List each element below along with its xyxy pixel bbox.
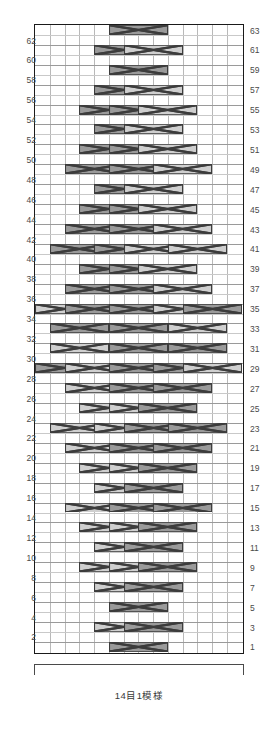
- bracket-bar: [34, 664, 244, 665]
- cable-symbol-dark: [153, 383, 212, 393]
- cable-symbol-dark: [109, 25, 168, 35]
- row-label-53: 53: [250, 125, 259, 135]
- grid-hline: [35, 453, 243, 454]
- row-label-8: 8: [31, 573, 36, 583]
- cable-symbol-dark: [138, 403, 197, 413]
- row-label-26: 26: [27, 394, 36, 404]
- pattern-repeat-bracket: [34, 664, 244, 676]
- cable-symbol-light: [183, 363, 242, 373]
- cable-symbol-dark: [138, 562, 197, 572]
- grid-vline: [212, 25, 213, 653]
- grid-hline: [35, 612, 243, 613]
- row-label-3: 3: [250, 623, 255, 633]
- cable-symbol-dark: [183, 304, 242, 314]
- grid-hline: [35, 75, 243, 76]
- row-label-30: 30: [27, 354, 36, 364]
- cable-symbol-light: [50, 343, 109, 353]
- row-label-18: 18: [27, 473, 36, 483]
- cable-symbol-light: [138, 105, 197, 115]
- grid-vline: [183, 25, 184, 653]
- row-label-21: 21: [250, 443, 259, 453]
- row-label-36: 36: [27, 294, 36, 304]
- row-label-43: 43: [250, 225, 259, 235]
- row-label-29: 29: [250, 364, 259, 374]
- row-label-1: 1: [250, 642, 255, 652]
- grid-hline: [35, 194, 243, 195]
- row-label-37: 37: [250, 284, 259, 294]
- cable-symbol-dark: [153, 503, 212, 513]
- grid-hline: [35, 274, 243, 275]
- grid-hline: [35, 134, 243, 135]
- cable-symbol-dark: [109, 65, 168, 75]
- row-label-17: 17: [250, 483, 259, 493]
- grid-vline: [153, 25, 154, 653]
- grid-vline: [79, 25, 80, 653]
- cable-symbol-dark: [109, 602, 168, 612]
- row-label-14: 14: [27, 513, 36, 523]
- row-label-31: 31: [250, 344, 259, 354]
- grid-vline: [109, 25, 110, 653]
- cable-symbol-light: [168, 323, 227, 333]
- cable-symbol-dark: [109, 323, 168, 333]
- row-label-2: 2: [31, 632, 36, 642]
- row-label-24: 24: [27, 414, 36, 424]
- row-label-35: 35: [250, 304, 259, 314]
- row-label-61: 61: [250, 45, 259, 55]
- cable-symbol-light: [124, 124, 183, 134]
- row-label-45: 45: [250, 205, 259, 215]
- row-label-51: 51: [250, 145, 259, 155]
- row-label-12: 12: [27, 533, 36, 543]
- cable-symbol-dark: [124, 582, 183, 592]
- row-label-57: 57: [250, 85, 259, 95]
- row-label-10: 10: [27, 553, 36, 563]
- grid-hline: [35, 353, 243, 354]
- cable-symbol-dark: [124, 542, 183, 552]
- chart-grid: [34, 24, 244, 654]
- row-label-25: 25: [250, 404, 259, 414]
- grid-hline: [35, 572, 243, 573]
- grid-hline: [35, 333, 243, 334]
- row-label-6: 6: [31, 593, 36, 603]
- row-label-15: 15: [250, 503, 259, 513]
- row-label-34: 34: [27, 314, 36, 324]
- cable-symbol-light: [153, 164, 212, 174]
- bracket-tick-right: [243, 664, 244, 675]
- grid-vline: [124, 25, 125, 653]
- row-label-63: 63: [250, 26, 259, 36]
- row-label-38: 38: [27, 274, 36, 284]
- cable-symbol-dark: [109, 343, 168, 353]
- cable-symbol-light: [124, 85, 183, 95]
- row-label-28: 28: [27, 374, 36, 384]
- grid-hline: [35, 314, 243, 315]
- grid-hline: [35, 632, 243, 633]
- cable-symbol-dark: [50, 323, 109, 333]
- grid-hline: [35, 493, 243, 494]
- pattern-repeat-caption: 14目1模様: [0, 688, 278, 702]
- grid-vline: [65, 25, 66, 653]
- row-label-48: 48: [27, 175, 36, 185]
- cable-symbol-dark: [138, 463, 197, 473]
- row-label-46: 46: [27, 195, 36, 205]
- grid-hline: [35, 373, 243, 374]
- row-label-44: 44: [27, 215, 36, 225]
- row-label-11: 11: [250, 543, 259, 553]
- cable-symbol-light: [138, 204, 197, 214]
- cable-symbol-light: [153, 224, 212, 234]
- grid-hline: [35, 214, 243, 215]
- row-label-5: 5: [250, 603, 255, 613]
- grid-hline: [35, 393, 243, 394]
- row-label-23: 23: [250, 424, 259, 434]
- row-label-39: 39: [250, 264, 259, 274]
- row-label-58: 58: [27, 75, 36, 85]
- cable-symbol-dark: [124, 622, 183, 632]
- grid-hline: [35, 552, 243, 553]
- grid-hline: [35, 294, 243, 295]
- grid-vline: [227, 25, 228, 653]
- row-label-41: 41: [250, 244, 259, 254]
- grid-lines: [35, 25, 243, 653]
- grid-hline: [35, 473, 243, 474]
- row-label-16: 16: [27, 493, 36, 503]
- row-label-9: 9: [250, 563, 255, 573]
- row-label-33: 33: [250, 324, 259, 334]
- row-label-50: 50: [27, 155, 36, 165]
